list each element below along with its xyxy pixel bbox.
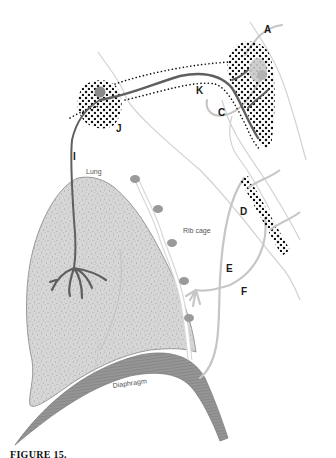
label-K: K bbox=[196, 85, 204, 96]
figure-caption: FIGURE 15. bbox=[10, 449, 67, 458]
anatomy-diagram: A C K J I D E F Lung Rib cage Diaphragm bbox=[0, 0, 336, 458]
label-J: J bbox=[116, 123, 122, 134]
label-C: C bbox=[218, 107, 225, 118]
nerve-E bbox=[200, 178, 244, 378]
ganglion-D bbox=[240, 176, 290, 256]
label-E: E bbox=[226, 263, 233, 274]
label-A: A bbox=[264, 24, 271, 35]
label-I: I bbox=[73, 151, 76, 162]
label-lung: Lung bbox=[86, 168, 102, 176]
label-rib-cage: Rib cage bbox=[183, 227, 211, 235]
ganglion-J bbox=[78, 80, 122, 128]
label-F: F bbox=[241, 286, 247, 297]
label-D: D bbox=[240, 206, 247, 217]
